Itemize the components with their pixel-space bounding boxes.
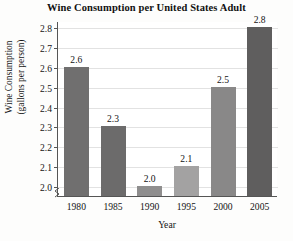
y-axis-tick-label: 2.2 <box>40 142 52 153</box>
y-axis-tick-label: 2.4 <box>40 102 52 113</box>
y-axis-tick-label: 2.8 <box>40 22 52 33</box>
y-axis-tick <box>54 147 58 148</box>
bar-value-label: 2.1 <box>180 153 192 164</box>
x-axis-tick-label: 2000 <box>213 201 232 212</box>
x-axis-title: Year <box>57 219 277 230</box>
y-axis-title: Wine Consumption (gallons per person) <box>4 12 34 142</box>
y-axis-tick <box>54 187 58 188</box>
y-axis-tick-label: 2.7 <box>40 42 52 53</box>
plot-area: 2.02.12.22.32.42.52.62.72.82.619802.3198… <box>57 22 277 197</box>
x-axis-tick-label: 1995 <box>177 201 196 212</box>
y-axis-title-line1: Wine Consumption <box>4 12 16 142</box>
y-axis-tick <box>54 48 58 49</box>
bar-value-label: 2.3 <box>107 113 119 124</box>
y-axis-tick <box>54 28 58 29</box>
bar: 2.52000 <box>211 87 236 196</box>
gridline <box>58 28 278 29</box>
y-axis-tick-label: 2.6 <box>40 62 52 73</box>
bar: 2.31985 <box>101 126 126 196</box>
gridline <box>58 108 278 109</box>
bar-value-label: 2.6 <box>70 54 82 65</box>
y-axis-tick-label: 2.1 <box>40 162 52 173</box>
y-axis-tick <box>54 127 58 128</box>
bar: 2.01990 <box>137 186 162 196</box>
x-axis-tick-label: 1980 <box>67 201 86 212</box>
bar-value-label: 2.0 <box>144 173 156 184</box>
gridline <box>58 187 278 188</box>
x-axis-tick-label: 1985 <box>103 201 122 212</box>
bar-value-label: 2.5 <box>217 74 229 85</box>
x-axis-tick-label: 1990 <box>140 201 159 212</box>
y-axis-title-line2: (gallons per person) <box>16 12 28 142</box>
y-axis-tick <box>54 68 58 69</box>
y-axis-tick-label: 2.0 <box>40 182 52 193</box>
y-axis-tick <box>54 167 58 168</box>
y-axis-tick <box>54 88 58 89</box>
bar: 2.11995 <box>174 166 199 196</box>
gridline <box>58 48 278 49</box>
chart-figure: Wine Consumption per United States Adult… <box>0 0 293 241</box>
gridline <box>58 127 278 128</box>
y-axis-tick-label: 2.5 <box>40 82 52 93</box>
y-axis-tick <box>54 108 58 109</box>
gridline <box>58 167 278 168</box>
x-axis-tick-label: 2005 <box>250 201 269 212</box>
gridline <box>58 88 278 89</box>
bar-value-label: 2.8 <box>254 14 266 25</box>
bar: 2.61980 <box>64 67 89 196</box>
bar: 2.82005 <box>247 27 272 196</box>
gridline <box>58 68 278 69</box>
gridline <box>58 147 278 148</box>
chart-title: Wine Consumption per United States Adult <box>0 2 293 13</box>
y-axis-tick-label: 2.3 <box>40 122 52 133</box>
